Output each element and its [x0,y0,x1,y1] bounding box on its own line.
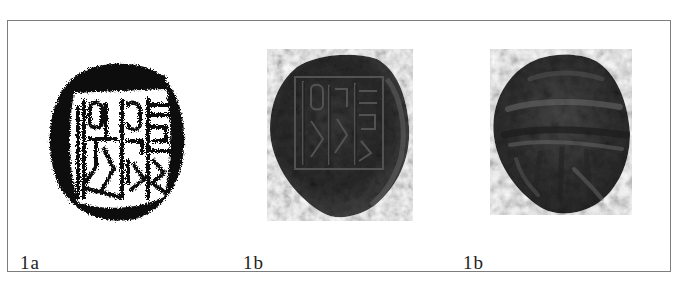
clay-sealing-reverse-image [490,49,632,215]
panel-1b-obverse-photo [267,49,413,221]
panel-1b-reverse-photo [490,49,632,215]
panel-label-1a: 1a [20,253,40,272]
figure-frame: 1a 1b 1b [7,20,671,272]
panel-label-1b-reverse: 1b [463,253,484,272]
cropped-caption-fragment [70,0,116,6]
panel-label-1b-obverse: 1b [243,253,264,272]
panel-1a-rubbing [44,57,190,223]
clay-sealing-obverse-image [267,49,413,221]
seal-rubbing-image [44,57,190,223]
